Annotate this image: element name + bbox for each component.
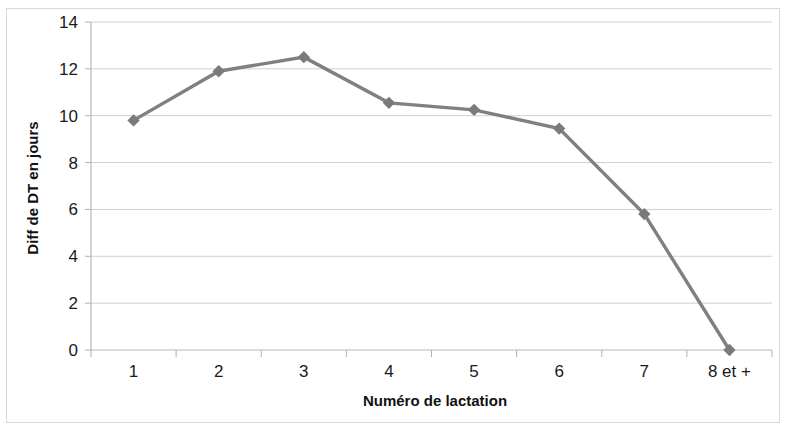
y-tick-label: 10	[59, 107, 78, 126]
x-tick-label: 8 et +	[708, 362, 751, 381]
y-tick-label: 12	[59, 60, 78, 79]
y-tick-label: 0	[69, 341, 78, 360]
y-tick-label: 4	[69, 247, 78, 266]
data-point-marker	[383, 97, 395, 109]
y-tick-labels-group: 02468101214	[59, 13, 78, 360]
data-point-marker	[468, 104, 480, 116]
data-point-marker	[298, 51, 310, 63]
y-tick-label: 14	[59, 13, 78, 32]
y-tickmarks-group	[85, 22, 91, 350]
gridlines-group	[91, 22, 772, 303]
x-tick-labels-group: 12345678 et +	[129, 362, 751, 381]
x-tickmarks-group	[91, 350, 772, 357]
y-tick-label: 6	[69, 200, 78, 219]
x-tick-label: 6	[554, 362, 563, 381]
chart-page: 02468101214 12345678 et + Numéro de lact…	[0, 0, 791, 437]
data-series-line	[134, 57, 730, 350]
x-tick-label: 5	[469, 362, 478, 381]
x-tick-label: 2	[214, 362, 223, 381]
y-tick-label: 8	[69, 154, 78, 173]
x-axis-title: Numéro de lactation	[363, 392, 507, 409]
x-tick-label: 7	[640, 362, 649, 381]
y-axis-title: Diff de DT en jours	[24, 121, 41, 254]
x-tick-label: 4	[384, 362, 393, 381]
data-markers-group	[127, 51, 735, 356]
line-chart: 02468101214 12345678 et + Numéro de lact…	[0, 0, 791, 437]
y-tick-label: 2	[69, 294, 78, 313]
x-tick-label: 3	[299, 362, 308, 381]
x-tick-label: 1	[129, 362, 138, 381]
